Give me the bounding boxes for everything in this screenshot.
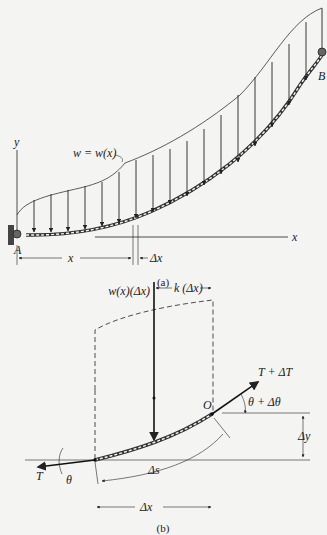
y-axis-label: y bbox=[13, 135, 20, 149]
tension-right-label: T + ΔT bbox=[258, 365, 294, 379]
point-o-label: O bbox=[203, 398, 212, 412]
tension-left-label: T bbox=[36, 469, 44, 483]
dim-dx-label: Δx bbox=[149, 251, 163, 265]
moment-arm-label: k (Δx) bbox=[174, 281, 203, 295]
x-axis-label: x bbox=[291, 230, 298, 244]
cable bbox=[26, 55, 322, 235]
support-b bbox=[318, 48, 326, 56]
dy-label: Δy bbox=[297, 429, 311, 443]
caption-b: (b) bbox=[157, 522, 170, 535]
load-label: w = w(x) bbox=[73, 146, 116, 160]
caption-a: (a) bbox=[157, 276, 170, 289]
dx-label: Δx bbox=[139, 500, 153, 514]
figure-b: w(x)(Δx) k (Δx) O T + ΔT θ + Δθ Δy T θ Δ… bbox=[25, 281, 311, 535]
dim-x-label: x bbox=[67, 251, 74, 265]
cable-diagram: y x w = w(x) bbox=[0, 0, 327, 535]
support-a bbox=[8, 225, 21, 245]
angle-left-label: θ bbox=[66, 473, 72, 487]
load-distribution-curve bbox=[17, 8, 322, 215]
resultant-label: w(x)(Δx) bbox=[108, 284, 150, 298]
angle-right-label: θ + Δθ bbox=[248, 395, 281, 409]
tension-left-arrow bbox=[38, 460, 95, 467]
support-a-label: A bbox=[13, 243, 22, 257]
ds-label: Δs bbox=[147, 463, 160, 477]
support-b-label: B bbox=[318, 69, 326, 83]
figure-a: y x w = w(x) bbox=[8, 8, 326, 289]
